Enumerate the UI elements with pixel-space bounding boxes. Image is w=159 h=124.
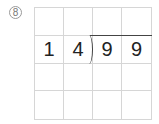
grid-cell[interactable] <box>35 64 64 92</box>
grid-cell[interactable] <box>122 8 151 36</box>
division-vinculum-line <box>90 35 152 36</box>
division-bracket-icon <box>85 35 93 64</box>
long-division-grid: 1 4 9 9 <box>34 7 152 120</box>
grid-cell[interactable] <box>64 8 93 36</box>
grid-cell[interactable] <box>64 64 93 92</box>
dividend-digit: 9 <box>93 36 122 64</box>
divisor-digit: 1 <box>35 36 64 64</box>
grid-cell[interactable] <box>35 91 64 119</box>
grid-cell[interactable] <box>93 8 122 36</box>
grid-cell[interactable] <box>122 64 151 92</box>
grid-cell[interactable] <box>122 91 151 119</box>
dividend-digit: 9 <box>122 36 151 64</box>
grid-cell[interactable] <box>93 64 122 92</box>
grid-cell[interactable] <box>93 91 122 119</box>
problem-number-badge: 8 <box>9 6 22 19</box>
grid-cell[interactable] <box>35 8 64 36</box>
grid-cell[interactable] <box>64 91 93 119</box>
